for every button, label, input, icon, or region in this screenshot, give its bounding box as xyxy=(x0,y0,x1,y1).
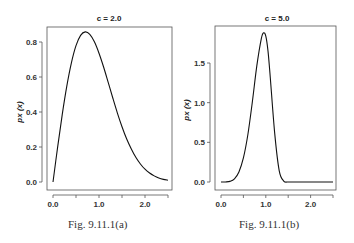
figure-caption-a: Fig. 9.11.1(a) xyxy=(68,218,127,230)
y-tick-label: 0.2 xyxy=(26,143,38,152)
y-axis-label: px (x) xyxy=(182,99,191,122)
x-tick-label: 1.0 xyxy=(260,200,272,209)
x-tick-label: 1.0 xyxy=(93,200,105,209)
plot-frame xyxy=(215,26,336,190)
figure-caption-b: Fig. 9.11.1(b) xyxy=(239,218,299,230)
chart-canvas: c = 2.0 px (x) 0.01.02.00.00.20.40.60.8 … xyxy=(0,0,354,243)
data-line xyxy=(53,32,168,182)
x-tick-label: 2.0 xyxy=(305,200,317,209)
y-tick-label: 0.6 xyxy=(26,73,38,82)
chart-panel-a: c = 2.0 px (x) 0.01.02.00.00.20.40.60.8 xyxy=(15,14,172,209)
y-tick-label: 0.0 xyxy=(26,178,38,187)
x-tick-label: 2.0 xyxy=(139,200,151,209)
y-tick-label: 0.4 xyxy=(26,108,38,117)
chart-title: c = 2.0 xyxy=(97,14,122,23)
y-tick-label: 1.0 xyxy=(194,99,206,108)
chart-panel-b: c = 5.0 px (x) 0.01.02.00.00.51.01.5 xyxy=(182,14,336,209)
y-tick-label: 0.8 xyxy=(26,38,38,47)
chart-title: c = 5.0 xyxy=(265,14,290,23)
data-line xyxy=(221,33,333,182)
x-tick-label: 0.0 xyxy=(215,200,227,209)
y-tick-label: 0.0 xyxy=(194,178,206,187)
y-tick-label: 0.5 xyxy=(194,138,206,147)
x-tick-label: 0.0 xyxy=(47,200,59,209)
plot-frame xyxy=(47,27,172,190)
y-axis-label: px (x) xyxy=(15,101,24,124)
y-tick-label: 1.5 xyxy=(194,59,206,68)
